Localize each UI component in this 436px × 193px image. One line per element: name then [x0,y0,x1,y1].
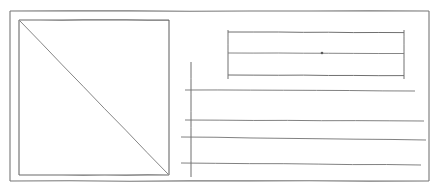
sketch-canvas [0,0,436,193]
body-rule-3 [181,137,426,140]
page-frame-border [10,11,429,181]
headline-center-dot [321,52,324,55]
headline-rule-top [228,32,404,33]
body-rule-4 [181,163,421,165]
headline-block-group [228,30,404,79]
page-frame-group [10,11,429,181]
body-rule-2 [185,120,424,121]
body-rule-lines [181,90,426,165]
body-copy-group [181,62,426,177]
body-rule-1 [185,90,415,91]
headline-rule-middle [228,53,404,54]
image-placeholder-group [19,20,169,175]
wireframe-sketch [0,0,436,193]
image-placeholder-diagonal-icon [20,21,168,174]
headline-rule-bottom [228,75,404,76]
